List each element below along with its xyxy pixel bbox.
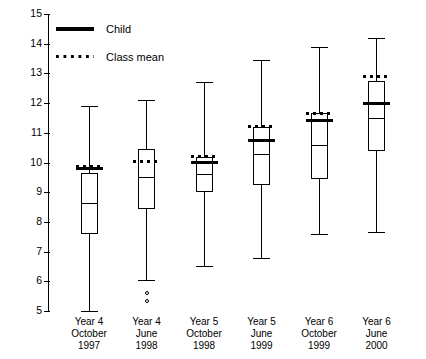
upper-whisker-line [261,60,262,127]
x-axis-label-line: Year 5 [176,316,233,328]
y-axis-tick [44,73,50,74]
upper-whisker-cap [81,106,98,107]
box-plot-group [291,0,348,312]
y-axis-tick [44,163,50,164]
child-marker [76,167,103,170]
y-axis-tick [44,252,50,253]
y-axis-tick-label: 11 [22,127,42,138]
x-axis-label-line: October [176,328,233,340]
child-marker [191,161,218,164]
iqr-box [138,149,155,208]
x-axis-label-line: 1998 [176,340,233,352]
x-axis-category-label: Year 4October1997 [61,316,118,352]
class-mean-marker [191,155,218,158]
lower-whisker-cap [253,258,270,259]
x-axis-label-line: 1999 [291,340,348,352]
x-axis-label-line: Year 4 [118,316,175,328]
y-axis-tick [44,281,50,282]
y-axis-tick [44,103,50,104]
lower-whisker-line [146,209,147,280]
x-axis-label-line: Year 6 [291,316,348,328]
median-line [311,145,328,146]
x-axis-label-line: Year 4 [61,316,118,328]
upper-whisker-cap [196,82,213,83]
y-axis-tick-label: 15 [22,8,42,19]
y-axis-tick [44,14,50,15]
child-marker [248,139,275,142]
class-mean-marker [248,125,275,128]
y-axis-tick [44,133,50,134]
lower-whisker-cap [138,280,155,281]
child-marker [363,102,390,105]
class-mean-marker [306,112,333,115]
y-axis-tick-label: 8 [22,216,42,227]
x-axis-category-label: Year 6June2000 [348,316,405,352]
median-line [196,174,213,175]
x-axis-label-line: Year 5 [233,316,290,328]
upper-whisker-line [204,82,205,156]
class-mean-marker [363,75,390,78]
iqr-box [311,113,328,178]
box-plot-group [176,0,233,312]
x-axis-category-label: Year 6October1999 [291,316,348,352]
y-axis-tick-label: 12 [22,97,42,108]
x-axis-label-line: 1999 [233,340,290,352]
y-axis-tick-label: 6 [22,275,42,286]
outlier-point [145,291,149,295]
lower-whisker-cap [196,266,213,267]
median-line [368,118,385,119]
y-axis-tick [44,311,50,312]
y-axis-tick-label: 13 [22,67,42,78]
lower-whisker-line [261,185,262,258]
upper-whisker-line [89,106,90,173]
x-axis-label-line: 2000 [348,340,405,352]
iqr-box [368,81,385,151]
x-axis-label-line: June [348,328,405,340]
box-plot-group [61,0,118,312]
y-axis-tick-label: 7 [22,246,42,257]
upper-whisker-line [146,100,147,149]
class-mean-marker [133,160,160,163]
x-axis-label-line: October [291,328,348,340]
y-axis-tick-label: 10 [22,157,42,168]
lower-whisker-line [376,151,377,233]
x-axis-category-label: Year 5June1999 [233,316,290,352]
iqr-box [253,127,270,185]
lower-whisker-line [89,234,90,311]
y-axis-tick-label: 9 [22,186,42,197]
y-axis-tick [44,44,50,45]
box-plot-group [118,0,175,312]
outlier-point [145,299,149,303]
box-plot-chart: 56789101112131415 Child Class mean Year … [0,0,426,359]
median-line [138,177,155,178]
upper-whisker-cap [368,38,385,39]
upper-whisker-cap [253,60,270,61]
upper-whisker-line [319,47,320,114]
x-axis-label-line: 1997 [61,340,118,352]
median-line [253,154,270,155]
x-axis-label-line: October [61,328,118,340]
lower-whisker-cap [311,234,328,235]
lower-whisker-line [319,179,320,234]
box-plot-group [348,0,405,312]
box-plot-group [233,0,290,312]
median-line [81,203,98,204]
x-axis-label-line: 1998 [118,340,175,352]
x-axis-label-line: June [233,328,290,340]
child-marker [306,119,333,122]
y-axis-tick-label: 14 [22,38,42,49]
y-axis-tick [44,192,50,193]
y-axis-tick-label: 5 [22,305,42,316]
x-axis-label-line: June [118,328,175,340]
upper-whisker-cap [138,100,155,101]
y-axis-tick [44,222,50,223]
lower-whisker-cap [368,232,385,233]
x-axis-label-line: Year 6 [348,316,405,328]
upper-whisker-cap [311,47,328,48]
x-axis-category-label: Year 4June1998 [118,316,175,352]
lower-whisker-cap [81,311,98,312]
x-axis-category-label: Year 5October1998 [176,316,233,352]
lower-whisker-line [204,192,205,266]
